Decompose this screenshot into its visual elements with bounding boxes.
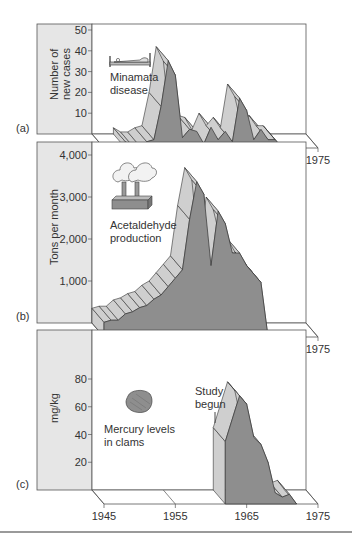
title-a-line1: Minamata <box>110 71 159 83</box>
panel-tag-c: (c) <box>16 478 29 490</box>
annotation-study-line1: Study <box>195 385 224 397</box>
title-a-line2: disease <box>110 84 148 96</box>
annotation-study-line2: begun <box>195 398 226 410</box>
y-label-c: mg/kg <box>48 393 60 423</box>
panel-tag-a: (a) <box>16 122 29 134</box>
y-label-b: Tons per month <box>48 189 60 265</box>
y-label-a-line2: new cases <box>60 48 72 100</box>
title-c-line1: Mercury levels <box>104 423 175 435</box>
panel-tag-b: (b) <box>16 310 29 322</box>
title-b-line2: production <box>110 232 161 244</box>
y-label-a-line1: Number of <box>48 48 60 100</box>
title-b-line1: Acetaldehyde <box>110 219 177 231</box>
title-c-line2: in clams <box>104 436 145 448</box>
